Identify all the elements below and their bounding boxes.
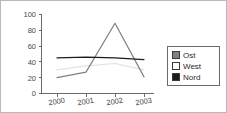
legend-swatch-ost [173, 52, 180, 59]
x-tick-label: 2003 [135, 96, 153, 107]
legend-label-nord: Nord [183, 73, 200, 82]
x-tick-label: 2002 [106, 96, 124, 107]
x-axis-labels: 2000 2001 2002 2003 [48, 96, 153, 107]
legend-swatch-west [173, 63, 180, 70]
y-tick-label: 80 [28, 26, 36, 35]
chart-legend[interactable]: Ost West Nord [168, 47, 220, 86]
x-tick-label: 2000 [48, 96, 66, 107]
series-line-nord [57, 57, 144, 59]
line-chart-plot: 100 80 60 40 20 0 2000 2001 2002 2003 [1, 1, 227, 113]
legend-label-west: West [183, 62, 202, 71]
legend-label-ost: Ost [183, 51, 196, 60]
y-tick-label: 40 [28, 58, 36, 67]
series-line-ost [57, 23, 144, 78]
series-line-west [57, 63, 144, 69]
y-tick-label: 60 [28, 42, 36, 51]
series-group [57, 23, 144, 78]
y-tick-label: 0 [32, 89, 36, 98]
y-axis-labels: 100 80 60 40 20 0 [23, 10, 36, 98]
y-tick-label: 100 [23, 10, 36, 19]
chart-container: 100 80 60 40 20 0 2000 2001 2002 2003 [0, 0, 227, 113]
legend-swatch-nord [173, 74, 180, 81]
x-tick-label: 2001 [77, 96, 95, 107]
y-tick-label: 20 [28, 74, 36, 83]
